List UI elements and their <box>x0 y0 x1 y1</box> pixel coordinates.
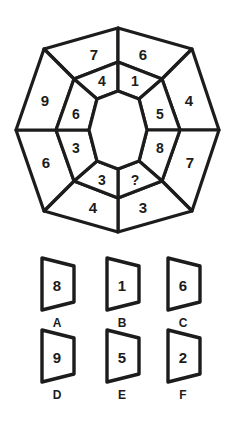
option-e-value: 5 <box>118 349 126 366</box>
option-f-shape: 2 <box>160 326 226 386</box>
outer-value-right-upper: 4 <box>185 92 194 109</box>
outer-value-left-lower: 6 <box>42 154 50 171</box>
inner-value-top-right: 1 <box>131 73 139 89</box>
option-f-letter: F <box>150 388 216 402</box>
answer-options-grid: 8 A 1 B 6 C 9 D 5 E 2 <box>0 248 235 430</box>
outer-value-top-left: 7 <box>90 46 98 63</box>
option-d-letter: D <box>24 388 90 402</box>
octagon-puzzle-figure: 7 6 4 7 3 4 6 9 4 1 5 8 ? 3 3 6 <box>0 0 235 248</box>
option-e-letter: E <box>89 388 155 402</box>
option-e-shape: 5 <box>99 326 165 386</box>
outer-value-left-upper: 9 <box>41 92 49 109</box>
inner-value-left-lower: 3 <box>72 140 80 156</box>
inner-value-right-upper: 5 <box>156 106 164 122</box>
option-c-value: 6 <box>179 277 187 294</box>
inner-value-bottom-right: ? <box>131 172 140 188</box>
inner-value-top-left: 4 <box>98 73 106 89</box>
option-d-shape: 9 <box>34 326 100 386</box>
option-f-value: 2 <box>179 349 187 366</box>
outer-value-bottom-right: 3 <box>139 199 147 216</box>
option-b-value: 1 <box>118 277 126 294</box>
outer-value-bottom-left: 4 <box>89 199 98 216</box>
inner-value-bottom-left: 3 <box>98 172 106 188</box>
option-a-shape: 8 <box>34 254 100 314</box>
inner-value-right-lower: 8 <box>156 140 164 156</box>
center-octagon <box>89 91 147 169</box>
outer-value-right-lower: 7 <box>186 154 194 171</box>
octagon-puzzle-svg: 7 6 4 7 3 4 6 9 4 1 5 8 ? 3 3 6 <box>0 0 235 248</box>
outer-value-top-right: 6 <box>139 46 147 63</box>
option-a-value: 8 <box>53 277 61 294</box>
option-c-shape: 6 <box>160 254 226 314</box>
option-b-shape: 1 <box>99 254 165 314</box>
option-d-value: 9 <box>53 349 61 366</box>
inner-value-left-upper: 6 <box>72 106 80 122</box>
option-f[interactable]: 2 F <box>160 326 226 412</box>
